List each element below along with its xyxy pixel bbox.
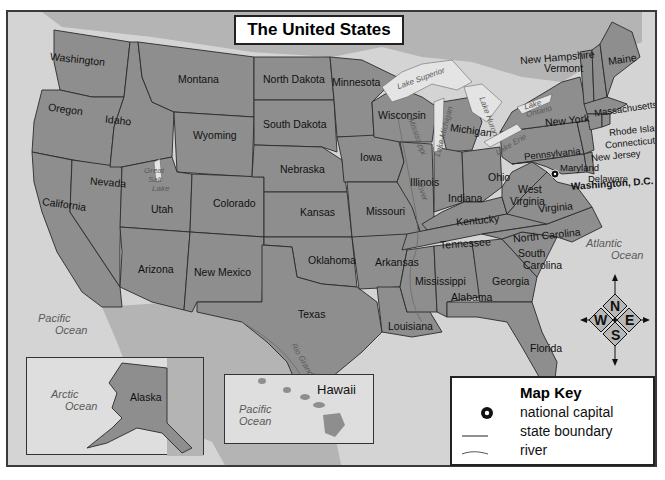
label-texas: Texas — [298, 309, 325, 320]
label-nebraska: Nebraska — [280, 164, 325, 175]
label-south-carolina-2: Carolina — [523, 260, 562, 271]
label-atlantic-ocean: Atlantic Ocean — [586, 237, 643, 261]
label-wyoming: Wyoming — [193, 130, 237, 141]
label-georgia: Georgia — [492, 276, 529, 287]
national-capital-icon — [474, 405, 504, 421]
state-wyoming — [174, 112, 254, 177]
label-mississippi: Mississippi — [415, 276, 466, 287]
label-idaho: Idaho — [105, 114, 132, 127]
label-iowa: Iowa — [360, 152, 382, 163]
label-louisiana: Louisiana — [388, 321, 433, 332]
label-alabama: Alabama — [451, 292, 492, 303]
label-arctic-ocean: Arctic Ocean — [51, 388, 97, 412]
label-new-mexico: New Mexico — [194, 267, 251, 278]
label-florida: Florida — [530, 343, 562, 354]
map-title-box: The United States — [234, 15, 404, 45]
label-maryland: Maryland — [560, 163, 599, 173]
map-key-title: Map Key — [520, 384, 582, 401]
label-alaska: Alaska — [130, 392, 162, 403]
label-great-salt-lake: Great Salt Lake — [144, 167, 169, 193]
label-utah: Utah — [151, 204, 173, 215]
label-wisconsin: Wisconsin — [378, 110, 426, 121]
label-pacific-ocean: Pacific Ocean — [38, 312, 87, 336]
label-kansas: Kansas — [300, 207, 335, 218]
river-line-icon — [462, 443, 492, 459]
label-oklahoma: Oklahoma — [308, 255, 356, 266]
label-vermont: Vermont — [544, 63, 583, 74]
label-south-carolina-1: South — [518, 248, 545, 259]
label-north-dakota: North Dakota — [263, 74, 325, 85]
hawaii-inset: Hawaii Pacific Ocean — [224, 374, 374, 444]
label-indiana: Indiana — [448, 193, 482, 204]
compass-w: W — [594, 312, 608, 328]
compass-e: E — [625, 312, 634, 328]
label-hawaii: Hawaii — [317, 383, 356, 396]
label-missouri: Missouri — [366, 206, 405, 217]
compass-n: N — [610, 298, 620, 314]
alaska-inset: Alaska Arctic Ocean — [26, 357, 204, 455]
label-west-virginia-1: West — [518, 184, 542, 195]
label-ohio: Ohio — [488, 172, 510, 183]
compass-s: S — [611, 327, 620, 343]
label-montana: Montana — [178, 74, 219, 85]
label-pacific-ocean-hawaii: Pacific Ocean — [239, 403, 271, 427]
map-key: Map Key national capital state boundary … — [450, 376, 655, 466]
label-south-dakota: South Dakota — [263, 119, 327, 130]
label-arizona: Arizona — [138, 264, 174, 275]
state-boundary-line-icon — [462, 424, 492, 440]
compass-rose: N S W E — [580, 274, 650, 366]
map-title: The United States — [247, 20, 391, 40]
label-west-virginia-2: Virginia — [510, 196, 545, 207]
label-minnesota: Minnesota — [332, 77, 380, 88]
label-colorado: Colorado — [213, 198, 256, 209]
label-arkansas: Arkansas — [375, 257, 419, 268]
